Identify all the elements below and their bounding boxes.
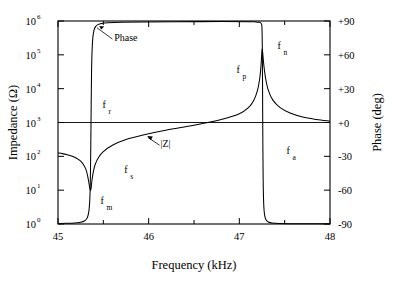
svg-text:10: 10 — [26, 16, 37, 27]
y-left-ticklabel: 100 — [26, 216, 42, 230]
x-ticklabel: 47 — [234, 231, 245, 242]
svg-text:1: 1 — [37, 182, 41, 190]
svg-text:Phase: Phase — [114, 32, 138, 43]
x-ticklabel: 45 — [53, 231, 64, 242]
fr-label: fr — [102, 99, 111, 116]
svg-text:10: 10 — [26, 219, 37, 230]
svg-text:0: 0 — [37, 216, 41, 224]
svg-text:s: s — [130, 172, 133, 181]
phase-leader-arrow — [99, 26, 104, 30]
x-axis-title: Frequency (kHz) — [151, 258, 236, 272]
y-right-ticklabel: -90 — [338, 219, 352, 230]
svg-text:4: 4 — [37, 81, 41, 89]
svg-text:|Z|: |Z| — [160, 138, 170, 149]
curve-z — [58, 49, 330, 191]
phase-label: Phase — [114, 32, 138, 43]
y-left-axis-title: Impedance (Ω) — [6, 85, 20, 161]
svg-text:3: 3 — [37, 115, 41, 123]
y-left-ticklabel: 101 — [26, 182, 42, 196]
svg-text:r: r — [108, 107, 111, 116]
z-label: |Z| — [160, 138, 170, 149]
y-right-ticklabel: -30 — [338, 151, 352, 162]
svg-text:f: f — [277, 40, 281, 51]
fp-label: fp — [237, 64, 247, 81]
y-right-ticklabel: -60 — [338, 185, 352, 196]
y-left-ticklabel: 106 — [26, 13, 42, 27]
impedance-phase-plot: 100101102103104105106-90-60-30+0+30+60+9… — [0, 0, 394, 281]
svg-text:f: f — [101, 195, 105, 206]
svg-text:10: 10 — [26, 118, 37, 129]
svg-text:m: m — [107, 203, 113, 212]
fm-label: fm — [101, 195, 113, 212]
x-ticklabel: 46 — [143, 231, 154, 242]
y-left-ticklabel: 103 — [26, 115, 42, 129]
svg-text:10: 10 — [26, 185, 37, 196]
svg-text:10: 10 — [26, 84, 37, 95]
y-left-ticklabel: 104 — [26, 81, 42, 95]
svg-text:n: n — [283, 48, 287, 57]
svg-text:10: 10 — [26, 151, 37, 162]
y-right-ticklabel: +60 — [338, 50, 354, 61]
svg-text:5: 5 — [37, 47, 41, 55]
y-left-ticklabel: 102 — [26, 148, 42, 162]
chart-figure: 100101102103104105106-90-60-30+0+30+60+9… — [0, 0, 394, 281]
svg-text:f: f — [124, 164, 128, 175]
svg-text:a: a — [292, 153, 296, 162]
phase-leader-line — [97, 28, 112, 39]
y-right-ticklabel: +0 — [338, 118, 349, 129]
svg-text:f: f — [237, 64, 241, 75]
svg-text:10: 10 — [26, 50, 37, 61]
svg-text:2: 2 — [37, 148, 41, 156]
y-right-ticklabel: +30 — [338, 84, 354, 95]
svg-text:6: 6 — [37, 13, 41, 21]
svg-text:f: f — [286, 145, 290, 156]
fn-label: fn — [277, 40, 287, 57]
y-right-ticklabel: +90 — [338, 16, 354, 27]
svg-text:f: f — [102, 99, 106, 110]
svg-text:p: p — [243, 72, 247, 81]
fs-label: fs — [124, 164, 133, 181]
fa-label: fa — [286, 145, 296, 162]
x-ticklabel: 48 — [325, 231, 336, 242]
y-left-ticklabel: 105 — [26, 47, 42, 61]
y-right-axis-title: Phase (deg) — [370, 93, 384, 152]
